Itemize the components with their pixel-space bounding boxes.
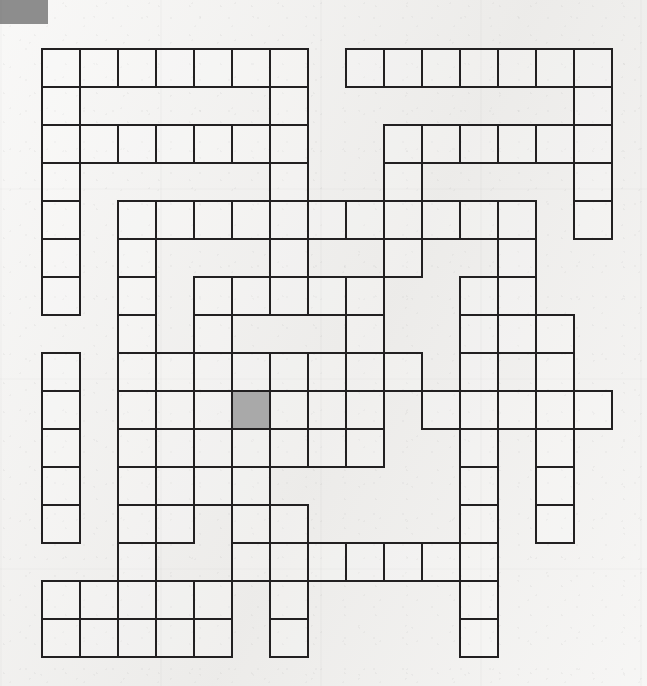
- crossword-cell[interactable]: [79, 618, 119, 658]
- crossword-cell[interactable]: [269, 390, 309, 430]
- crossword-cell[interactable]: [117, 200, 157, 240]
- crossword-cell[interactable]: [79, 48, 119, 88]
- crossword-cell[interactable]: [345, 428, 385, 468]
- crossword-cell[interactable]: [193, 124, 233, 164]
- crossword-cell[interactable]: [535, 314, 575, 354]
- crossword-cell[interactable]: [269, 124, 309, 164]
- crossword-cell[interactable]: [269, 580, 309, 620]
- crossword-cell[interactable]: [421, 200, 461, 240]
- crossword-cell[interactable]: [535, 466, 575, 506]
- crossword-cell[interactable]: [459, 200, 499, 240]
- crossword-cell[interactable]: [155, 200, 195, 240]
- crossword-cell[interactable]: [41, 352, 81, 392]
- crossword-cell[interactable]: [535, 504, 575, 544]
- crossword-cell[interactable]: [383, 162, 423, 202]
- crossword-cell[interactable]: [535, 428, 575, 468]
- crossword-cell[interactable]: [193, 428, 233, 468]
- crossword-cell[interactable]: [345, 390, 385, 430]
- crossword-cell[interactable]: [193, 276, 233, 316]
- crossword-cell[interactable]: [459, 48, 499, 88]
- crossword-cell[interactable]: [41, 48, 81, 88]
- crossword-cell[interactable]: [231, 428, 271, 468]
- crossword-cell[interactable]: [155, 580, 195, 620]
- crossword-cell[interactable]: [269, 352, 309, 392]
- crossword-cell[interactable]: [497, 200, 537, 240]
- crossword-cell[interactable]: [269, 48, 309, 88]
- crossword-cell[interactable]: [193, 580, 233, 620]
- crossword-cell[interactable]: [383, 542, 423, 582]
- crossword-cell[interactable]: [269, 542, 309, 582]
- crossword-cell[interactable]: [231, 504, 271, 544]
- crossword-cell[interactable]: [117, 314, 157, 354]
- crossword-cell[interactable]: [345, 314, 385, 354]
- crossword-cell[interactable]: [535, 352, 575, 392]
- crossword-cell[interactable]: [497, 238, 537, 278]
- crossword-cell[interactable]: [117, 276, 157, 316]
- crossword-cell[interactable]: [269, 504, 309, 544]
- crossword-cell[interactable]: [269, 86, 309, 126]
- crossword-cell[interactable]: [155, 428, 195, 468]
- crossword-cell[interactable]: [231, 352, 271, 392]
- crossword-cell[interactable]: [573, 390, 613, 430]
- crossword-cell[interactable]: [345, 48, 385, 88]
- crossword-cell[interactable]: [155, 352, 195, 392]
- crossword-cell[interactable]: [535, 390, 575, 430]
- crossword-cell[interactable]: [269, 428, 309, 468]
- crossword-cell[interactable]: [345, 200, 385, 240]
- crossword-cell[interactable]: [307, 200, 347, 240]
- crossword-cell[interactable]: [459, 314, 499, 354]
- crossword-cell[interactable]: [459, 542, 499, 582]
- crossword-cell[interactable]: [459, 124, 499, 164]
- crossword-cell[interactable]: [155, 390, 195, 430]
- crossword-cell[interactable]: [269, 618, 309, 658]
- crossword-cell[interactable]: [231, 466, 271, 506]
- crossword-cell[interactable]: [383, 48, 423, 88]
- crossword-cell[interactable]: [231, 48, 271, 88]
- crossword-cell[interactable]: [41, 504, 81, 544]
- crossword-cell[interactable]: [79, 580, 119, 620]
- crossword-cell[interactable]: [117, 124, 157, 164]
- crossword-cell[interactable]: [459, 352, 499, 392]
- crossword-cell[interactable]: [155, 48, 195, 88]
- crossword-cell[interactable]: [231, 200, 271, 240]
- crossword-cell[interactable]: [497, 390, 537, 430]
- crossword-cell[interactable]: [193, 390, 233, 430]
- crossword-cell[interactable]: [307, 428, 347, 468]
- crossword-cell[interactable]: [459, 618, 499, 658]
- crossword-cell[interactable]: [535, 48, 575, 88]
- crossword-cell[interactable]: [497, 48, 537, 88]
- crossword-cell[interactable]: [41, 238, 81, 278]
- crossword-cell[interactable]: [421, 390, 461, 430]
- crossword-cell[interactable]: [383, 352, 423, 392]
- crossword-cell[interactable]: [117, 352, 157, 392]
- crossword-cell[interactable]: [269, 162, 309, 202]
- crossword-cell[interactable]: [573, 162, 613, 202]
- crossword-cell[interactable]: [383, 238, 423, 278]
- crossword-cell[interactable]: [41, 390, 81, 430]
- crossword-cell[interactable]: [383, 200, 423, 240]
- crossword-cell[interactable]: [155, 124, 195, 164]
- crossword-cell[interactable]: [573, 48, 613, 88]
- crossword-cell[interactable]: [345, 276, 385, 316]
- crossword-cell[interactable]: [155, 504, 195, 544]
- crossword-cell[interactable]: [41, 276, 81, 316]
- crossword-cell[interactable]: [231, 276, 271, 316]
- crossword-cell[interactable]: [193, 200, 233, 240]
- crossword-cell[interactable]: [497, 124, 537, 164]
- crossword-cell[interactable]: [459, 466, 499, 506]
- crossword-cell[interactable]: [345, 542, 385, 582]
- crossword-cell[interactable]: [117, 618, 157, 658]
- crossword-cell[interactable]: [573, 200, 613, 240]
- crossword-cell[interactable]: [269, 238, 309, 278]
- crossword-cell[interactable]: [459, 428, 499, 468]
- crossword-cell[interactable]: [193, 48, 233, 88]
- crossword-cell[interactable]: [231, 124, 271, 164]
- crossword-cell[interactable]: [307, 352, 347, 392]
- crossword-cell[interactable]: [117, 504, 157, 544]
- crossword-cell[interactable]: [155, 618, 195, 658]
- crossword-cell[interactable]: [193, 618, 233, 658]
- crossword-cell[interactable]: [535, 124, 575, 164]
- crossword-cell[interactable]: [155, 466, 195, 506]
- crossword-cell[interactable]: [117, 466, 157, 506]
- crossword-cell[interactable]: [269, 200, 309, 240]
